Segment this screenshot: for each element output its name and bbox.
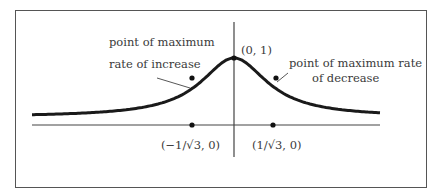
label-max-decrease-1: point of maximum rate — [289, 56, 422, 70]
label-max-increase-2: rate of increase — [109, 57, 201, 71]
pointer-increase — [157, 78, 190, 88]
pointer-decrease — [277, 73, 288, 82]
label-max-decrease-2: of decrease — [312, 71, 379, 85]
label-max-increase-1: point of maximum — [109, 35, 215, 49]
inflection-left-point — [189, 75, 194, 80]
inflection-right-point — [273, 75, 278, 80]
axis-left-point — [189, 122, 194, 127]
peak-point — [231, 55, 236, 60]
curve-diagram — [0, 0, 444, 196]
label-left-point: (−1/√3, 0) — [161, 138, 220, 152]
label-right-point: (1/√3, 0) — [252, 138, 301, 152]
label-peak: (0, 1) — [241, 43, 272, 57]
axis-right-point — [270, 122, 275, 127]
